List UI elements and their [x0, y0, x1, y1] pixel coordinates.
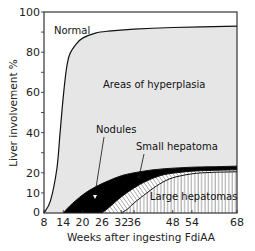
- label-large-hepatomas: Large hepatomas: [150, 191, 237, 202]
- x-tick-label: 14: [56, 216, 70, 229]
- y-axis-label: Liver involvement %: [7, 59, 19, 167]
- y-tick-label: 60: [26, 86, 40, 99]
- plot-area: [44, 26, 237, 213]
- x-tick-label: 54: [185, 216, 199, 229]
- y-tick-label: 20: [26, 167, 40, 180]
- label-hyperplasia: Areas of hyperplasia: [103, 79, 205, 90]
- x-tick-label: 36: [127, 216, 141, 229]
- x-tick-label: 20: [76, 216, 90, 229]
- label-small-hepatoma: Small hepatoma: [136, 141, 218, 152]
- x-axis-label: Weeks after ingesting FdiAA: [67, 231, 216, 243]
- y-tick-label: 40: [26, 127, 40, 140]
- x-tick-label: 48: [166, 216, 180, 229]
- x-tick-label: 8: [41, 216, 48, 229]
- label-normal: Normal: [54, 25, 90, 36]
- x-tick-label: 26: [95, 216, 109, 229]
- y-tick-label: 100: [19, 6, 40, 19]
- liver-involvement-chart: 1020406080100081420263236485468 Normal A…: [0, 0, 255, 251]
- y-tick-label: 10: [26, 187, 40, 200]
- y-tick-label: 80: [26, 46, 40, 59]
- label-nodules: Nodules: [96, 124, 136, 135]
- y-tick-label-zero: 0: [33, 206, 40, 219]
- x-tick-label: 68: [230, 216, 244, 229]
